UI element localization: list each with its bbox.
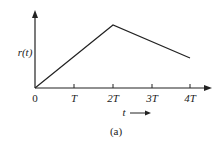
figure-caption: (a) (110, 125, 123, 138)
x-axis-label: t (122, 106, 126, 118)
x-axis-arrow-icon (204, 85, 212, 91)
x-direction-arrowhead-icon (145, 111, 151, 116)
chart: 0 T 2T 3T 4T r(t) t (a) (0, 0, 224, 150)
tick-label-4T: 4T (184, 92, 197, 104)
y-axis-arrow-icon (32, 10, 38, 18)
tick-label-3T: 3T (145, 92, 159, 104)
signal-line (35, 25, 190, 88)
y-axis-label: r(t) (18, 46, 33, 59)
tick-label-0: 0 (32, 92, 38, 104)
tick-label-T: T (71, 92, 78, 104)
tick-label-2T: 2T (107, 92, 120, 104)
